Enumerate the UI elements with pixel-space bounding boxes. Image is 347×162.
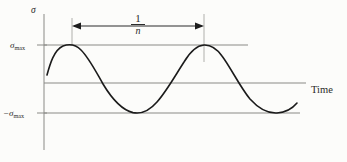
- stress-time-plot: σ σmax −σmax 1 n Time: [0, 0, 347, 162]
- arrow-right-icon: [195, 23, 204, 30]
- neg-sigma-max-label: −σmax: [3, 108, 25, 119]
- neg-sigma-max-label-subscript: max: [14, 112, 26, 119]
- cyclic-stress-diagram: σ σmax −σmax 1 n Time: [0, 0, 347, 162]
- arrow-left-icon: [72, 23, 81, 30]
- period-numerator-label: 1: [135, 12, 141, 24]
- stress-waveform-curve: [47, 45, 297, 113]
- x-axis-label: Time: [311, 84, 333, 95]
- period-denominator-label: n: [136, 25, 141, 36]
- sigma-max-label-subscript: max: [14, 44, 26, 51]
- y-axis-symbol-label: σ: [31, 5, 36, 15]
- sigma-max-label: σmax: [10, 40, 26, 51]
- neg-sigma-max-label-symbol: −σ: [3, 108, 14, 118]
